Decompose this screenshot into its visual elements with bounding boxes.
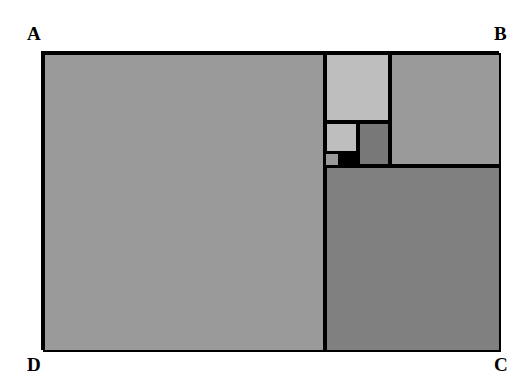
corner-label-b: B xyxy=(494,24,507,43)
square-mid-small xyxy=(358,122,390,166)
square-upper-small xyxy=(325,53,390,122)
corner-label-c: C xyxy=(494,355,508,374)
square-spiral-centre xyxy=(339,151,358,166)
figure-canvas: A B C D xyxy=(0,0,529,392)
square-bottom-right xyxy=(325,166,501,352)
square-tiny-light xyxy=(325,122,358,153)
square-smallest-gray xyxy=(325,153,339,166)
corner-label-d: D xyxy=(27,355,41,374)
corner-label-a: A xyxy=(27,24,41,43)
golden-rectangle-abcd xyxy=(41,51,499,350)
square-top-right xyxy=(390,53,501,166)
square-largest xyxy=(43,53,325,352)
